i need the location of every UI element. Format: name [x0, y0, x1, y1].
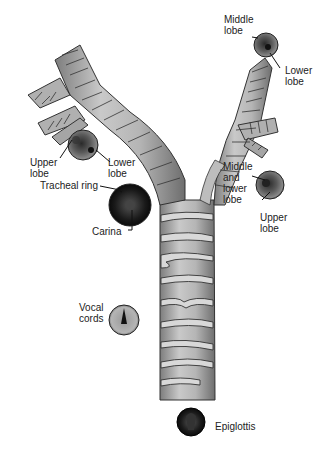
label-line: lobe: [30, 168, 57, 179]
label-right-middle-lobe: Middle lobe: [224, 14, 253, 36]
label-line: lobe: [223, 194, 252, 205]
label-line: lobe: [224, 25, 253, 36]
trachea: [160, 200, 215, 400]
label-left-upper-lobe: Upper lobe: [30, 157, 57, 179]
label-vocal-cords: Vocal cords: [79, 302, 103, 324]
label-line: and: [223, 172, 252, 183]
label-line: Lower: [285, 65, 312, 76]
view-right-middle-upper: [256, 171, 284, 199]
view-tracheal-ring-carina: [109, 184, 151, 226]
label-line: lobe: [285, 76, 312, 87]
label-left-lower-lobe: Lower lobe: [108, 157, 135, 179]
label-line: lobe: [260, 223, 287, 234]
view-vocal-cords: [109, 305, 139, 335]
view-epiglottis: [177, 408, 205, 436]
label-line: Vocal: [79, 302, 103, 313]
label-line: lower: [223, 183, 252, 194]
label-line: Upper: [30, 157, 57, 168]
label-right-upper-lobe: Upper lobe: [260, 212, 287, 234]
label-tracheal-ring: Tracheal ring: [40, 180, 98, 191]
label-epiglottis: Epiglottis: [215, 421, 256, 432]
label-line: Upper: [260, 212, 287, 223]
label-line: Middle: [223, 161, 252, 172]
label-right-middle-and-lower-lobe: Middle and lower lobe: [223, 161, 252, 205]
label-line: lobe: [108, 168, 135, 179]
view-right-middle-lower-top: [254, 33, 278, 57]
view-left-lobes: [68, 130, 98, 160]
label-line: cords: [79, 313, 103, 324]
label-line: Middle: [224, 14, 253, 25]
label-line: Lower: [108, 157, 135, 168]
label-right-lower-lobe: Lower lobe: [285, 65, 312, 87]
label-carina: Carina: [92, 226, 121, 237]
